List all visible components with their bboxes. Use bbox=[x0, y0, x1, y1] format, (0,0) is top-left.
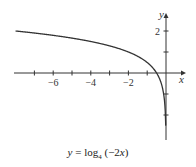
caption-arg-open: (−2 bbox=[102, 146, 120, 158]
y-tick-label: 2 bbox=[155, 26, 160, 37]
function-caption: y = log4 (−2x) bbox=[0, 146, 196, 161]
caption-log: = log bbox=[72, 146, 98, 158]
x-axis-label: x bbox=[178, 73, 184, 85]
axes: −6−4−22 bbox=[14, 13, 186, 140]
y-axis-arrow-icon bbox=[164, 13, 169, 18]
caption-arg-close: ) bbox=[125, 146, 129, 158]
x-tick-label: −6 bbox=[48, 77, 59, 88]
x-tick-label: −2 bbox=[123, 77, 134, 88]
y-axis-label: y bbox=[158, 8, 164, 20]
x-tick-label: −4 bbox=[85, 77, 96, 88]
log-function-plot: −6−4−22 x y bbox=[0, 0, 196, 145]
